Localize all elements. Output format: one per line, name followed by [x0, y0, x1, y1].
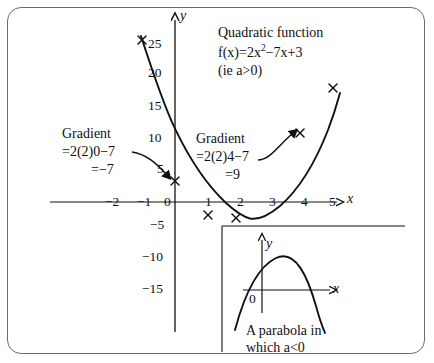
- marker-x4-y7: [296, 129, 304, 137]
- fx-expression-pre: f(x)=2x: [218, 45, 261, 60]
- quadratic-note-line3: (ie a>0): [218, 62, 262, 80]
- left-gradient-line1: Gradient: [62, 125, 111, 142]
- y-tick--10: −10: [142, 249, 163, 265]
- x-tick-2: 2: [237, 194, 244, 210]
- marker-vertex: [232, 214, 240, 222]
- y-tick-10: 10: [148, 130, 162, 146]
- right-gradient-line1: Gradient: [196, 130, 245, 147]
- x-tick--1: −1: [137, 194, 151, 210]
- x-tick-1: 1: [205, 194, 212, 210]
- x-axis-label: x: [347, 191, 353, 207]
- main-graph-svg: [0, 0, 434, 363]
- left-gradient-line3: =−7: [91, 161, 114, 178]
- y-tick-5: 5: [157, 161, 164, 177]
- left-gradient-line2: =2(2)0−7: [62, 143, 115, 160]
- figure-page: −2 −1 0 1 2 3 4 5 x 25 20 15 10 5 −5 −10…: [0, 0, 434, 363]
- x-tick--2: −2: [105, 194, 119, 210]
- y-tick-20: 20: [148, 65, 162, 81]
- marker-x1: [204, 211, 212, 219]
- y-tick-15: 15: [148, 98, 162, 114]
- x-tick-3: 3: [269, 194, 276, 210]
- marker-x5-y18: [329, 84, 337, 92]
- y-tick-25: 25: [148, 36, 162, 52]
- x-tick-5: 5: [329, 194, 336, 210]
- inset-origin-label: 0: [249, 291, 256, 307]
- quadratic-note-line1: Quadratic function: [218, 24, 323, 42]
- inset-caption-line2: which a<0: [246, 339, 305, 356]
- inset-caption-line1: A parabola in: [246, 322, 321, 339]
- fx-expression-post: −7x+3: [266, 45, 303, 60]
- right-gradient-line2: =2(2)4−7: [196, 148, 249, 165]
- x-tick-0: 0: [164, 194, 171, 210]
- right-gradient-arrow: [258, 134, 292, 160]
- inset-y-axis-label: y: [266, 236, 272, 252]
- inset-x-axis-label: x: [333, 281, 339, 297]
- x-tick-4: 4: [301, 194, 308, 210]
- y-axis-label: y: [180, 8, 186, 24]
- quadratic-note-line2: f(x)=2x2−7x+3: [218, 43, 302, 61]
- y-tick--5: −5: [150, 217, 164, 233]
- right-gradient-line3: =9: [225, 166, 240, 183]
- y-tick--15: −15: [142, 281, 163, 297]
